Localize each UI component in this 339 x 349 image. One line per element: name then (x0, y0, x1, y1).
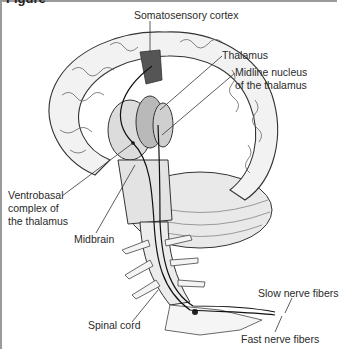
label-midline-nucleus-2: of the thalamus (235, 79, 307, 91)
label-midbrain: Midbrain (74, 233, 114, 245)
label-midline-nucleus-1: Midline nucleus (235, 66, 307, 78)
label-somatosensory-cortex: Somatosensory cortex (134, 9, 238, 21)
label-fast-nerve-fibers: Fast nerve fibers (241, 333, 319, 345)
label-ventrobasal-1: Ventrobasal (8, 189, 63, 201)
label-slow-nerve-fibers: Slow nerve fibers (258, 287, 339, 299)
vertebra (165, 305, 262, 335)
midbrain (118, 160, 172, 224)
label-ventrobasal-2: complex of (8, 202, 59, 214)
label-ventrobasal-3: the thalamus (8, 215, 68, 227)
thalamus (108, 96, 173, 160)
label-spinal-cord: Spinal cord (88, 319, 141, 331)
label-thalamus: Thalamus (222, 49, 268, 61)
